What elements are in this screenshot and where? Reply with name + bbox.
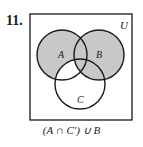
label-b: B <box>96 49 102 60</box>
set-expression-caption: (A ∩ C′) ∪ B <box>0 124 143 137</box>
label-u: U <box>120 19 129 31</box>
label-c: C <box>77 94 84 105</box>
label-a: A <box>57 49 65 60</box>
